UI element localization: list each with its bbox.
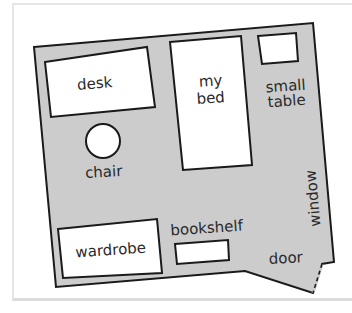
- bookshelf: [175, 240, 229, 264]
- bed-label-line2: bed: [196, 88, 225, 108]
- chair-label: chair: [85, 162, 124, 182]
- chair: [86, 124, 120, 158]
- small-table-label-line2: table: [267, 91, 306, 112]
- small-table: [258, 33, 298, 64]
- desk-label: desk: [76, 73, 113, 94]
- door-label: door: [268, 248, 304, 268]
